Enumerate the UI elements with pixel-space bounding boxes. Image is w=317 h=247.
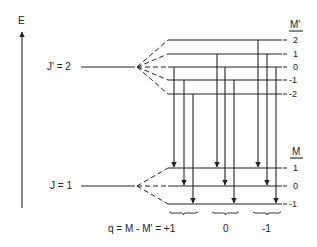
- lower-m-header: M: [292, 146, 300, 157]
- upper-sublevels: 210-1-2: [168, 35, 298, 99]
- lower-sublevel-label: 1: [293, 163, 298, 173]
- lower-sublevels: 10-1: [168, 163, 298, 209]
- group-brace: [169, 212, 198, 215]
- lower-sublevel-label: -1: [289, 199, 297, 209]
- upper-fan-line: [137, 40, 168, 67]
- lower-fan-line: [137, 186, 168, 204]
- group-brace: [253, 212, 281, 215]
- energy-axis: E: [18, 15, 25, 208]
- transition-arrows: [174, 40, 276, 203]
- lower-splitting-fan: [137, 168, 168, 204]
- upper-fan-line: [137, 54, 168, 67]
- zeeman-transition-diagram: E J' = 2 210-1-2 M' J = 1 10-1 M q = M -…: [0, 0, 317, 247]
- lower-level: J = 1 10-1 M: [50, 146, 303, 209]
- lower-sublevel-label: 0: [293, 181, 298, 191]
- upper-splitting-fan: [137, 40, 168, 94]
- lower-fan-line: [137, 168, 168, 186]
- group-braces: [169, 212, 281, 215]
- upper-m-header: M': [290, 19, 300, 30]
- upper-sublevel-label: 2: [293, 35, 298, 45]
- upper-sublevel-label: -1: [289, 75, 297, 85]
- lower-level-label: J = 1: [50, 180, 72, 191]
- energy-axis-label: E: [18, 15, 25, 26]
- q-label-0: 0: [223, 223, 229, 234]
- upper-fan-line: [137, 67, 168, 94]
- upper-sublevel-label: 0: [293, 62, 298, 72]
- upper-fan-line: [137, 67, 168, 80]
- q-label-minus1: -1: [262, 223, 271, 234]
- group-brace: [212, 212, 239, 215]
- upper-level: J' = 2 210-1-2 M': [47, 19, 303, 99]
- upper-sublevel-label: 1: [293, 49, 298, 59]
- upper-level-label: J' = 2: [47, 61, 71, 72]
- q-label-plus1: q = M - M' = +1: [108, 223, 176, 234]
- upper-sublevel-label: -2: [289, 89, 297, 99]
